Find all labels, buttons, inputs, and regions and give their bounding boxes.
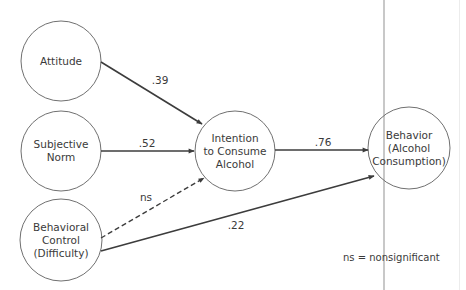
edge-label-attitude-to-intention: .39 <box>152 74 169 86</box>
path-diagram: Attitude Subjective Norm Behavioral Cont… <box>0 0 466 290</box>
node-behavioral-control-label: Behavioral Control (Difficulty) <box>33 221 89 260</box>
node-attitude-label: Attitude <box>40 55 82 68</box>
edge-label-control-to-intention: ns <box>140 191 152 203</box>
node-behavior-label: Behavior (Alcohol Consumption) <box>372 129 446 168</box>
edge-control-to-intention <box>101 178 204 238</box>
edge-label-intention-to-behavior: .76 <box>315 136 332 148</box>
legend-ns: ns = nonsignificant <box>343 252 440 263</box>
edge-label-control-to-behavior: .22 <box>228 219 245 231</box>
node-subjective-norm-label: Subjective Norm <box>34 138 89 164</box>
edge-label-norm-to-intention: .52 <box>139 137 156 149</box>
node-intention-label: Intention to Consume Alcohol <box>203 132 266 171</box>
edge-attitude-to-intention <box>101 62 202 124</box>
